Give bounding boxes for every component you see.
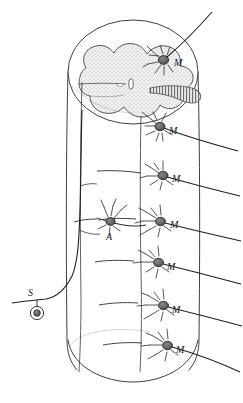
- motor-neuron-4: M: [98, 205, 241, 241]
- motor-neuron-3: M: [97, 161, 240, 196]
- butterfly-gray-matter: [79, 43, 193, 117]
- motor-neuron-7-label: M: [175, 344, 185, 355]
- motor-dendrite-5-left: [95, 260, 134, 262]
- association-neuron-label: A: [105, 231, 113, 242]
- motor-neuron-6-label: M: [171, 304, 181, 315]
- association-neuron: A: [74, 199, 146, 242]
- motor-neuron-3-label: M: [171, 173, 181, 184]
- motor-dendrite-7-left: [103, 343, 142, 345]
- motor-neuron-7: M: [103, 329, 240, 372]
- motor-neuron-2-label: M: [168, 125, 178, 136]
- sensory-label: S: [28, 287, 33, 298]
- motor-neuron-5: M: [95, 246, 241, 284]
- motor-neuron-4-label: M: [169, 219, 179, 230]
- motor-dendrite-4-left: [98, 218, 136, 220]
- motor-neuron-6: M: [99, 289, 242, 326]
- motor-neuron-1-label: M: [173, 57, 183, 68]
- figure-canvas: M M M: [0, 0, 243, 403]
- motor-dendrite-6-left: [99, 303, 138, 305]
- association-dendrite-left: [74, 219, 97, 222]
- spinal-cord-figure: M M M: [0, 0, 243, 403]
- gray-commissure-slit: [117, 84, 123, 87]
- central-canal: [129, 79, 133, 89]
- motor-dendrite-3-left: [97, 171, 141, 173]
- ganglion-cell-circle: [30, 306, 43, 319]
- sensory-fiber: [12, 110, 82, 307]
- sensory-afferent-fiber: [12, 110, 82, 303]
- motor-neuron-5-label: M: [166, 261, 176, 272]
- sensory-collaterals: [79, 184, 100, 235]
- association-axon: [114, 223, 146, 226]
